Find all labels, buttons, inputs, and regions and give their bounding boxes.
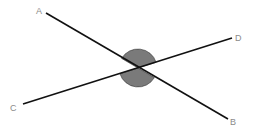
shaded-angle-aod: [122, 49, 157, 68]
line-ab: [46, 13, 228, 119]
label-a: A: [36, 6, 42, 16]
intersecting-lines-diagram: A B C D: [0, 0, 255, 139]
label-c: C: [10, 103, 17, 113]
shaded-angle-cob: [120, 68, 154, 87]
label-b: B: [230, 117, 236, 127]
label-d: D: [235, 33, 242, 43]
line-cd: [23, 38, 232, 104]
